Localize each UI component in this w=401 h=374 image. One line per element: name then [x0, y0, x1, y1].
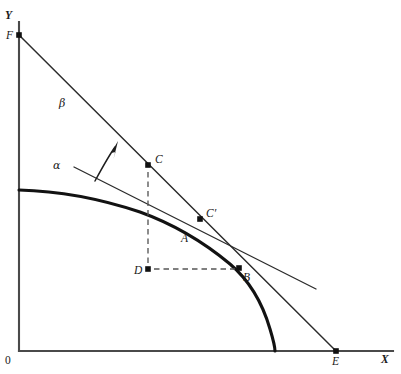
point-label-c: C: [155, 153, 163, 165]
point-marker-c: [145, 162, 151, 168]
point-marker-b: [236, 265, 242, 271]
tangent-line-alpha: [74, 167, 316, 289]
diagram-canvas: Y X 0 β α F C C′ A B D E: [0, 0, 401, 374]
shift-arrow-head: [111, 141, 118, 159]
economics-diagram: Y X 0 β α F C C′ A B D E: [0, 0, 401, 374]
point-label-c-prime: C′: [206, 207, 217, 219]
point-marker-d: [145, 266, 151, 272]
point-marker-c-prime: [197, 216, 203, 222]
y-axis-label: Y: [5, 9, 13, 21]
point-label-a: A: [180, 232, 189, 244]
alpha-label: α: [53, 159, 61, 172]
point-label-e: E: [331, 355, 339, 367]
x-axis-label: X: [380, 353, 389, 365]
point-label-b: B: [243, 271, 250, 283]
point-label-d: D: [133, 264, 143, 276]
origin-label: 0: [5, 354, 11, 366]
beta-label: β: [58, 97, 65, 110]
point-label-f: F: [5, 29, 14, 41]
point-marker-f: [16, 32, 22, 38]
point-marker-e: [333, 348, 339, 354]
